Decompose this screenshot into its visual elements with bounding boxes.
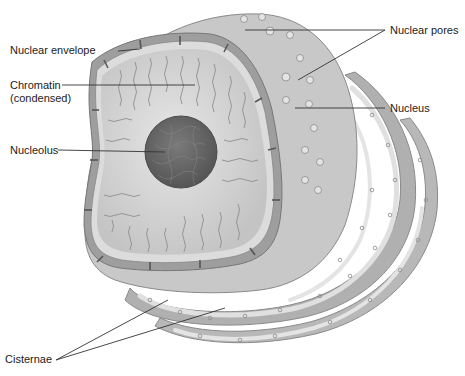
- label-nuclear-envelope: Nuclear envelope: [10, 44, 96, 57]
- label-nuclear-pores: Nuclear pores: [390, 24, 458, 37]
- label-nucleolus: Nucleolus: [10, 144, 58, 157]
- label-cisternae: Cisternae: [5, 353, 52, 366]
- label-nucleus: Nucleus: [390, 102, 430, 115]
- nucleus-diagram: Nuclear envelope Chromatin (condensed) N…: [0, 0, 465, 376]
- label-chromatin: Chromatin: [10, 79, 61, 92]
- label-chromatin-condensed: (condensed): [10, 92, 71, 105]
